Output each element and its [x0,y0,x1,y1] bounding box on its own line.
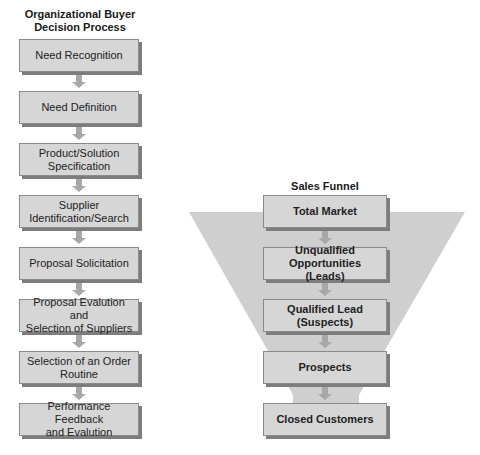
step-label: Need Definition [41,101,116,114]
stage-label: Closed Customers [276,413,373,426]
stage-label: Prospects [298,361,351,374]
step-product-solution-specification: Product/Solution Specification [19,143,139,176]
step-label: Selection of an Order [27,355,131,368]
step-need-definition: Need Definition [19,91,139,124]
stage-label: Total Market [293,205,357,218]
left-diagram-title: Organizational Buyer Decision Process [10,8,150,34]
title-line-2: Decision Process [10,21,150,34]
step-label: Supplier [29,199,129,212]
step-selection-order-routine: Selection of an Order Routine [19,351,139,384]
arrow-down-icon [72,179,86,192]
step-label: Identification/Search [29,212,129,225]
arrow-down-icon [318,283,332,296]
sales-funnel-title: Sales Funnel [265,180,385,193]
step-label: Product/Solution [39,147,120,160]
stage-total-market: Total Market [263,195,387,228]
stage-closed-customers: Closed Customers [263,403,387,436]
stage-prospects: Prospects [263,351,387,384]
stage-unqualified-opportunities: Unqualified Opportunities (Leads) [263,247,387,280]
step-proposal-evaluation-selection: Proposal Evalution and Selection of Supp… [19,299,139,332]
arrow-down-icon [318,231,332,244]
arrow-down-icon [318,335,332,348]
step-label: Proposal Solicitation [29,257,129,270]
stage-label: Unqualified [268,244,382,257]
stage-label: Opportunities (Leads) [268,257,382,283]
step-proposal-solicitation: Proposal Solicitation [19,247,139,280]
step-performance-feedback: Performance Feedback and Evalution [19,403,139,436]
arrow-down-icon [72,127,86,140]
step-label: and Evalution [24,426,134,439]
arrow-down-icon [72,387,86,400]
step-label: Selection of Suppliers [24,322,134,335]
title-line-1: Organizational Buyer [10,8,150,21]
arrow-down-icon [72,283,86,296]
stage-qualified-lead: Qualified Lead (Suspects) [263,299,387,332]
stage-label: Qualified Lead [287,303,363,316]
arrow-down-icon [318,387,332,400]
step-supplier-identification-search: Supplier Identification/Search [19,195,139,228]
step-label: Need Recognition [35,49,122,62]
step-label: Proposal Evalution and [24,296,134,322]
arrow-down-icon [72,335,86,348]
step-label: Performance Feedback [24,400,134,426]
stage-label: (Suspects) [287,316,363,329]
arrow-down-icon [72,231,86,244]
step-need-recognition: Need Recognition [19,39,139,72]
step-label: Routine [27,368,131,381]
arrow-down-icon [72,75,86,88]
step-label: Specification [39,160,120,173]
